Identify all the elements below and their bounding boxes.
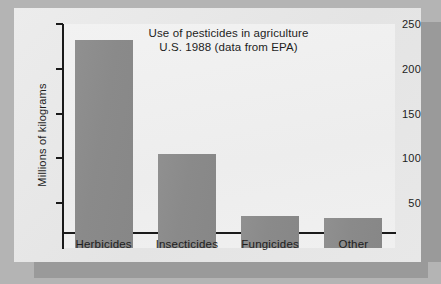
y-axis-title: Millions of kilograms [36, 60, 48, 210]
bar-insecticides[interactable] [158, 154, 216, 248]
bar-herbicides[interactable] [75, 40, 133, 248]
x-label-fungicides: Fungicides [241, 238, 299, 250]
figure-card: Use of pesticides in agriculture U.S. 19… [14, 8, 421, 262]
x-axis-category-labels: HerbicidesInsecticidesFungicidesOther [62, 238, 402, 256]
bar-series [62, 24, 395, 248]
figure-container: Use of pesticides in agriculture U.S. 19… [0, 0, 441, 284]
figure-shadow-bottom [34, 262, 428, 278]
x-label-insecticides: Insecticides [156, 238, 218, 250]
x-label-other: Other [338, 238, 368, 250]
x-label-herbicides: Herbicides [75, 238, 131, 250]
figure-shadow-right [421, 22, 441, 262]
